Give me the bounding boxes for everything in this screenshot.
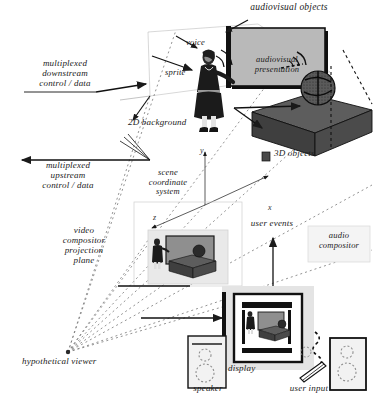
axis-label-y: y: [200, 146, 204, 155]
label-voice: voice: [186, 38, 226, 48]
label-user-events: user events: [236, 218, 308, 228]
label-speaker: speaker: [182, 383, 234, 393]
label-multiplexed-downstream: multiplexed downstream control / data: [20, 58, 110, 88]
label-display: display: [228, 363, 276, 373]
axis-label-x: x: [268, 203, 272, 212]
sphere-3d-object: [301, 71, 335, 105]
speaker-device: [188, 336, 226, 388]
viewer-point: [66, 350, 70, 354]
label-video-compositor: video compositor projection plane: [48, 225, 120, 265]
label-3d-objects: 3D objects: [274, 148, 338, 158]
label-2d-background: 2D background: [128, 117, 208, 127]
label-user-input: user input: [278, 383, 340, 393]
video-compositor-plane: [118, 202, 242, 286]
label-multiplexed-upstream: multiplexed upstream control / data: [22, 160, 114, 190]
label-sprite: sprite: [165, 68, 205, 78]
label-hypothetical-viewer: hypothetical viewer: [22, 356, 152, 366]
label-audiovisual-objects: audiovisual objects: [216, 2, 362, 13]
label-scene-coordinate-system: scene coordinate system: [138, 168, 198, 197]
diagram-canvas: audiovisual objects voice sprite audiovi…: [0, 0, 378, 402]
axis-label-z: z: [153, 213, 156, 222]
label-audiovisual-presentation: audiovisual presentation: [244, 55, 310, 74]
label-audio-compositor: audio compositor: [310, 231, 368, 250]
display-monitor: [222, 286, 314, 370]
